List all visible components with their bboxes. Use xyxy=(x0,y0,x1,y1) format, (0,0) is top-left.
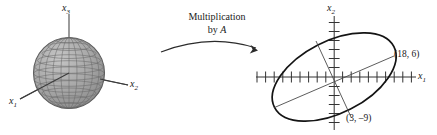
minor-axis-chord xyxy=(316,41,352,118)
domain-x2-axis-label: x2 xyxy=(130,79,138,92)
operator-arrow-head xyxy=(250,45,258,54)
ellipse-curve xyxy=(258,15,410,135)
operator-by-word: by xyxy=(208,24,218,35)
operator-arrow-curve xyxy=(161,41,256,52)
operator-caption-line1: Multiplication xyxy=(176,11,258,24)
linear-transformation-figure: x3 x2 x1 Multiplication by A xyxy=(0,0,437,135)
x2-axis-foreground xyxy=(100,79,128,85)
major-axis-chord xyxy=(275,56,395,108)
operator-caption: Multiplication by A xyxy=(176,11,258,36)
point-label-18-6: (18, 6) xyxy=(394,49,419,60)
domain-sphere-plot xyxy=(0,0,160,135)
range-x2-axis-label: x2 xyxy=(327,3,335,16)
operator-matrix-symbol: A xyxy=(220,24,226,35)
operator-caption-line2: by A xyxy=(176,24,258,37)
domain-x1-axis-label: x1 xyxy=(9,96,17,109)
x2-axis-group xyxy=(329,16,340,130)
point-label-3-neg9: (3, –9) xyxy=(346,113,371,124)
x1-axis-group xyxy=(256,72,416,83)
domain-x3-axis-label: x3 xyxy=(62,3,70,16)
range-x1-axis-label: x1 xyxy=(418,71,426,84)
